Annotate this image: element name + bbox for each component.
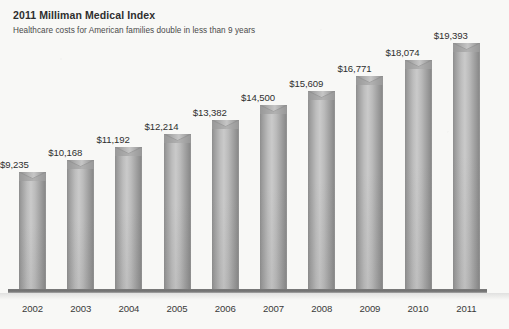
- x-tick-2002: 2002: [10, 303, 55, 314]
- bar-2006[interactable]: [212, 120, 239, 290]
- bar-top-cap: [212, 120, 239, 129]
- bar-body: [67, 160, 94, 290]
- x-tick-2005: 2005: [155, 303, 200, 314]
- bar-value-label-2005: $12,214: [145, 121, 179, 132]
- bar-value-label-2004: $11,192: [96, 134, 129, 145]
- bar-value-label-2008: $15,609: [289, 78, 323, 89]
- bar-2005[interactable]: [164, 134, 191, 290]
- x-tick-2004: 2004: [106, 303, 151, 314]
- x-tick-2011: 2011: [444, 303, 489, 314]
- bar-2010[interactable]: [405, 60, 432, 290]
- bar-top-cap: [260, 105, 287, 114]
- x-tick-2003: 2003: [58, 303, 103, 314]
- bar-top-cap: [453, 43, 480, 52]
- bar-value-label-2010: $18,074: [386, 47, 420, 58]
- bar-top-cap: [405, 60, 432, 69]
- bar-top-cap: [356, 76, 383, 85]
- bar-body: [212, 120, 239, 290]
- bar-value-label-2006: $13,382: [193, 107, 227, 118]
- bar-2008[interactable]: [308, 91, 335, 290]
- bar-top-cap: [308, 91, 335, 100]
- x-tick-2009: 2009: [347, 303, 392, 314]
- bar-body: [19, 172, 46, 290]
- bar-value-label-2011: $19,393: [434, 30, 468, 41]
- bar-value-label-2003: $10,168: [48, 147, 82, 158]
- plot-area: $9,235$10,168$11,192$12,214$13,382$14,50…: [0, 0, 509, 292]
- x-tick-2006: 2006: [203, 303, 248, 314]
- bar-2009[interactable]: [356, 76, 383, 290]
- bar-value-label-2009: $16,771: [337, 63, 371, 74]
- bar-2003[interactable]: [67, 160, 94, 290]
- bar-top-cap: [115, 147, 142, 156]
- bar-body: [115, 147, 142, 290]
- bar-value-label-2007: $14,500: [241, 92, 275, 103]
- bar-body: [453, 43, 480, 290]
- bar-body: [356, 76, 383, 290]
- bar-body: [164, 134, 191, 290]
- x-tick-2010: 2010: [396, 303, 441, 314]
- x-tick-2007: 2007: [251, 303, 296, 314]
- bar-top-cap: [19, 172, 46, 181]
- bar-body: [308, 91, 335, 290]
- bar-2004[interactable]: [115, 147, 142, 290]
- bar-body: [405, 60, 432, 290]
- axis-floor-shadow: [0, 293, 509, 300]
- bar-body: [260, 105, 287, 290]
- bar-2011[interactable]: [453, 43, 480, 290]
- bar-top-cap: [164, 134, 191, 143]
- bar-2007[interactable]: [260, 105, 287, 290]
- bar-2002[interactable]: [19, 172, 46, 290]
- bar-top-cap: [67, 160, 94, 169]
- bar-value-label-2002: $9,235: [0, 159, 29, 170]
- milliman-medical-index-chart: 2011 Milliman Medical Index Healthcare c…: [0, 0, 509, 329]
- x-tick-2008: 2008: [299, 303, 344, 314]
